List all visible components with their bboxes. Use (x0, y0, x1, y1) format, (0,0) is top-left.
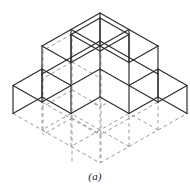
isometric-figure: (a) (0, 0, 190, 185)
figure-caption: (a) (0, 170, 190, 182)
cube-stack-drawing (0, 0, 190, 185)
